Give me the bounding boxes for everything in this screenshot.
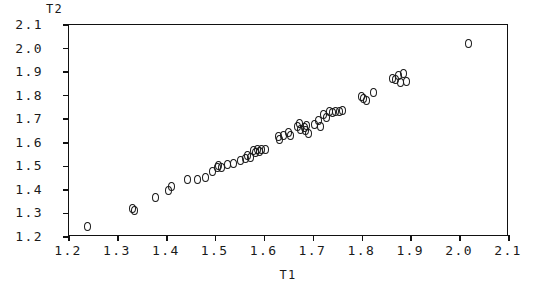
x-axis-title: T1 — [279, 268, 296, 282]
x-tick-mark — [362, 235, 364, 241]
data-points-layer — [69, 25, 507, 235]
data-point — [305, 129, 312, 138]
x-tick-mark — [410, 235, 412, 241]
data-point — [317, 122, 324, 131]
y-tick-mark — [63, 236, 69, 238]
x-tick-label: 1.6 — [250, 243, 278, 258]
data-point — [465, 39, 472, 48]
data-point — [287, 131, 294, 140]
data-point — [184, 175, 191, 184]
y-tick-label: 1.6 — [15, 134, 43, 149]
data-point — [131, 206, 138, 215]
data-point — [339, 106, 346, 115]
y-tick-label: 2.0 — [15, 40, 43, 55]
y-tick-label: 1.9 — [15, 64, 43, 79]
data-point — [262, 145, 269, 154]
y-tick-label: 1.3 — [15, 205, 43, 220]
y-tick-label: 1.4 — [15, 181, 43, 196]
y-tick-label: 1.2 — [15, 229, 43, 244]
x-tick-mark — [313, 235, 315, 241]
y-tick-label: 1.5 — [15, 158, 43, 173]
y-axis-title: T2 — [46, 2, 63, 16]
x-tick-label: 1.4 — [152, 243, 180, 258]
x-tick-mark — [459, 235, 461, 241]
x-tick-label: 1.7 — [299, 243, 327, 258]
x-tick-mark — [264, 235, 266, 241]
plot-area — [68, 24, 508, 236]
y-tick-label: 1.7 — [15, 111, 43, 126]
y-tick-label: 2.1 — [15, 17, 43, 32]
data-point — [363, 96, 370, 105]
y-tick-label: 1.8 — [15, 87, 43, 102]
data-point — [194, 175, 201, 184]
scatter-plot-figure: T2 T1 1.21.31.41.51.61.71.81.92.02.1 1.2… — [0, 0, 557, 293]
data-point — [152, 193, 159, 202]
x-tick-label: 2.1 — [494, 243, 522, 258]
x-tick-label: 1.3 — [103, 243, 131, 258]
x-tick-label: 1.2 — [54, 243, 82, 258]
x-tick-label: 1.5 — [201, 243, 229, 258]
data-point — [370, 88, 377, 97]
x-tick-mark — [215, 235, 217, 241]
x-tick-mark — [117, 235, 119, 241]
x-tick-mark — [166, 235, 168, 241]
data-point — [168, 182, 175, 191]
data-point — [202, 173, 209, 182]
x-tick-mark — [508, 235, 510, 241]
data-point — [403, 77, 410, 86]
x-tick-label: 1.8 — [347, 243, 375, 258]
x-tick-label: 1.9 — [396, 243, 424, 258]
data-point — [84, 222, 91, 231]
x-tick-label: 2.0 — [445, 243, 473, 258]
